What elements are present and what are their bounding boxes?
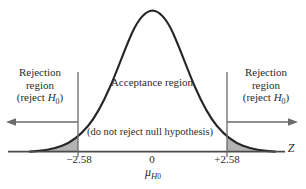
right-rejection-arrow-head (288, 118, 298, 126)
rejection-left-line1: Rejection (19, 66, 61, 78)
rejection-left-line2: region (26, 79, 54, 91)
rejection-left-line3-pre: (reject (17, 91, 48, 103)
left-rejection-arrow-head (6, 118, 16, 126)
rejection-region-right-label: Rejection region (reject H0) (230, 66, 302, 107)
rejection-right-line2: region (252, 79, 280, 91)
left-rejection-tail-shading (30, 137, 78, 152)
rejection-left-line3-post: ) (60, 91, 64, 103)
rejection-right-line3-post: ) (286, 91, 290, 103)
right-rejection-tail-shading (227, 137, 275, 152)
acceptance-region-label: Acceptance region (88, 76, 216, 88)
mu-subscript-zero: 0 (157, 172, 161, 181)
tick-label-zero: 0 (133, 153, 171, 165)
rejection-region-left-label: Rejection region (reject H0) (4, 66, 76, 107)
rejection-left-h-symbol: H (48, 91, 56, 103)
rejection-right-h-symbol: H (274, 91, 282, 103)
rejection-right-line1: Rejection (245, 66, 287, 78)
axis-label-z: Z (282, 142, 300, 155)
mu-null-hypothesis-label: μH0 (128, 166, 178, 182)
do-not-reject-null-hypothesis-label: (do not reject null hypothesis) (58, 126, 242, 138)
tick-label-negative-critical: −2.58 (56, 153, 102, 165)
tick-label-positive-critical: +2.58 (204, 153, 250, 165)
hypothesis-test-normal-curve-figure: Rejection region (reject H0) Rejection r… (0, 0, 306, 189)
rejection-right-line3-pre: (reject (243, 91, 274, 103)
